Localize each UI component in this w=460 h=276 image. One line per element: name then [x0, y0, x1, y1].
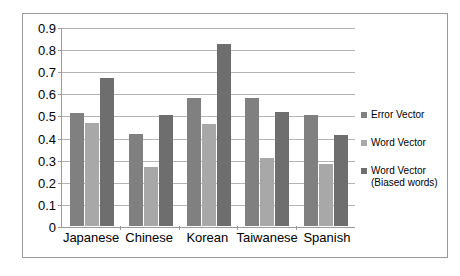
y-axis-tick-label: 0.7	[38, 66, 56, 79]
bar-groups	[63, 28, 355, 226]
y-axis-tick	[58, 28, 62, 29]
y-axis-tick-label: 0.3	[38, 154, 56, 167]
bar	[85, 123, 99, 226]
chart-legend: Error VectorWord VectorWord Vector (Bias…	[361, 109, 447, 205]
y-axis-tick	[58, 72, 62, 73]
bar	[334, 135, 348, 226]
bar	[245, 98, 259, 226]
legend-label: Word Vector	[371, 137, 426, 149]
legend-swatch-icon	[361, 140, 367, 146]
bar-group	[238, 28, 296, 226]
legend-swatch-icon	[361, 168, 367, 174]
chart-frame: 00.10.20.30.40.50.60.70.80.9 JapaneseChi…	[22, 13, 448, 258]
y-axis-tick-label: 0.2	[38, 176, 56, 189]
bar	[319, 164, 333, 226]
y-axis-tick	[58, 161, 62, 162]
legend-item: Error Vector	[361, 109, 447, 121]
y-axis-tick-label: 0.9	[38, 22, 56, 35]
bar	[304, 115, 318, 226]
bar-group	[180, 28, 238, 226]
y-axis-tick-label: 0.1	[38, 198, 56, 211]
y-axis-tick	[58, 50, 62, 51]
legend-label: Error Vector	[371, 109, 424, 121]
x-axis-tick	[179, 226, 180, 230]
legend-item: Word Vector (Biased words)	[361, 165, 447, 189]
bar	[275, 112, 289, 226]
y-axis-tick-label: 0.5	[38, 110, 56, 123]
y-axis-tick	[58, 139, 62, 140]
y-axis-tick-label: 0.8	[38, 44, 56, 57]
legend-label: Word Vector (Biased words)	[371, 165, 438, 189]
legend-swatch-icon	[361, 112, 367, 118]
bar	[260, 158, 274, 226]
legend-item: Word Vector	[361, 137, 447, 149]
x-axis-tick	[120, 226, 121, 230]
bar	[144, 167, 158, 226]
bar	[159, 115, 173, 226]
bar-group	[297, 28, 355, 226]
bar	[129, 134, 143, 226]
category-label: Japanese	[62, 231, 120, 244]
bar	[100, 78, 114, 226]
bar-group	[121, 28, 179, 226]
y-axis-tick	[58, 183, 62, 184]
bar	[187, 98, 201, 226]
plot-area: 00.10.20.30.40.50.60.70.80.9	[61, 28, 355, 228]
bar	[202, 124, 216, 226]
y-axis-tick	[58, 227, 62, 228]
category-label: Spanish	[298, 231, 356, 244]
category-label: Taiwanese	[236, 231, 297, 244]
y-axis-tick-label: 0.6	[38, 88, 56, 101]
bar	[70, 113, 84, 226]
category-label: Chinese	[120, 231, 178, 244]
y-axis-tick-label: 0.4	[38, 132, 56, 145]
bar	[217, 44, 231, 226]
category-label: Korean	[178, 231, 236, 244]
category-axis-labels: JapaneseChineseKoreanTaiwaneseSpanish	[62, 231, 356, 244]
y-axis-tick-label: 0	[49, 221, 56, 234]
bar-group	[63, 28, 121, 226]
y-axis-tick	[58, 205, 62, 206]
y-axis-tick	[58, 94, 62, 95]
y-axis-tick	[58, 116, 62, 117]
